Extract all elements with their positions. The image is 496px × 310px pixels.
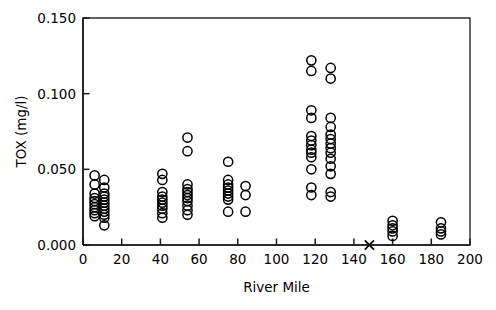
data-point-circle	[224, 207, 233, 216]
data-points-group	[90, 56, 446, 250]
data-point-circle	[326, 74, 335, 83]
y-tick-label: 0.150	[37, 10, 76, 26]
data-point-circle	[326, 113, 335, 122]
x-tick-label: 180	[418, 251, 444, 267]
data-point-circle	[90, 180, 99, 189]
x-tick-label: 60	[191, 251, 208, 267]
y-tick-label: 0.100	[37, 86, 76, 102]
x-tick-label: 40	[152, 251, 169, 267]
x-tick-label: 20	[113, 251, 130, 267]
data-point-circle	[158, 175, 167, 184]
data-point-circle	[241, 190, 250, 199]
data-point-circle	[183, 147, 192, 156]
x-tick-label: 200	[457, 251, 483, 267]
plot-frame-box	[83, 18, 470, 245]
y-tick-label: 0.000	[37, 237, 76, 253]
x-tick-label: 0	[79, 251, 88, 267]
chart-canvas: 0.0000.0500.1000.15002040608010012014016…	[0, 0, 496, 310]
data-point-circle	[241, 207, 250, 216]
y-tick-label: 0.050	[37, 161, 76, 177]
data-point-circle	[307, 56, 316, 65]
y-axis-title: TOX (mg/l)	[13, 95, 29, 168]
x-axis-title: River Mile	[243, 279, 310, 295]
plot-frame	[83, 18, 470, 245]
data-point-circle	[307, 66, 316, 75]
data-point-circle	[183, 133, 192, 142]
data-point-circle	[326, 63, 335, 72]
x-tick-label: 140	[341, 251, 367, 267]
y-axis-title-group: TOX (mg/l)	[13, 95, 29, 168]
scatter-plot-figure: 0.0000.0500.1000.15002040608010012014016…	[0, 0, 496, 310]
x-tick-label: 80	[229, 251, 246, 267]
x-axis-ticks: 020406080100120140160180200	[79, 239, 483, 268]
data-point-circle	[241, 181, 250, 190]
x-tick-label: 100	[264, 251, 290, 267]
y-axis-ticks: 0.0000.0500.1000.150	[37, 10, 89, 253]
x-tick-label: 120	[302, 251, 328, 267]
x-tick-label: 160	[380, 251, 406, 267]
data-point-circle	[307, 165, 316, 174]
data-point-circle	[90, 171, 99, 180]
data-point-circle	[224, 157, 233, 166]
